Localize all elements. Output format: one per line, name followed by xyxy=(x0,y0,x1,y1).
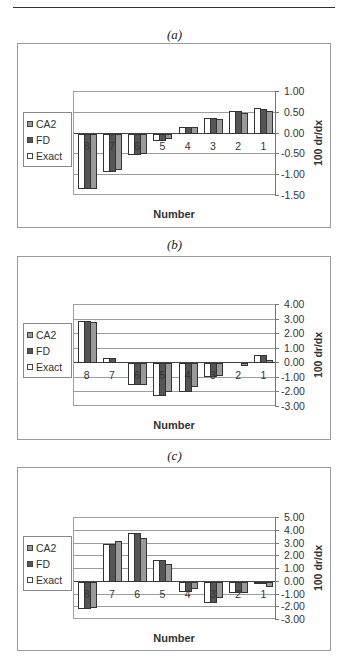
y-tick xyxy=(275,304,279,305)
y-tick-label: -3.00 xyxy=(281,613,305,625)
y-tick xyxy=(275,91,279,92)
gridline xyxy=(74,333,275,334)
category-label: 3 xyxy=(203,588,223,600)
legend-label: CA2 xyxy=(36,542,56,554)
panel-label-a: (a) xyxy=(0,27,349,43)
y-tick xyxy=(275,568,279,569)
y-tick xyxy=(275,406,279,407)
bar-ca2-1 xyxy=(266,582,273,587)
bar-ca2-1 xyxy=(266,111,273,134)
legend-item-ca2: CA2 xyxy=(27,116,71,132)
category-label: 8 xyxy=(77,140,97,152)
x-axis-label: Number xyxy=(73,419,275,431)
y-tick-label: -1.50 xyxy=(281,189,305,201)
bar-fd-7 xyxy=(109,358,116,363)
y-tick xyxy=(275,543,279,544)
legend-swatch-icon xyxy=(27,348,33,354)
category-label: 6 xyxy=(127,140,147,152)
y-tick xyxy=(275,594,279,595)
legend-item-ca2: CA2 xyxy=(27,540,71,556)
y-tick-label: 1.00 xyxy=(284,562,304,574)
bar-ca2-8 xyxy=(90,322,97,364)
category-label: 7 xyxy=(102,140,122,152)
y-tick-label: 1.00 xyxy=(284,342,304,354)
legend-label: CA2 xyxy=(36,329,56,341)
y-tick xyxy=(275,555,279,556)
y-tick-label: 2.00 xyxy=(284,327,304,339)
legend-swatch-icon xyxy=(27,364,33,370)
y-tick xyxy=(275,377,279,378)
y-tick-label: 0.50 xyxy=(284,106,304,118)
bar-ca2-5 xyxy=(165,134,172,139)
legend: CA2FDExact xyxy=(23,323,72,378)
y-tick xyxy=(275,333,279,334)
y-tick xyxy=(275,348,279,349)
y-tick-label: 4.00 xyxy=(284,298,304,310)
y-tick-label: 4.00 xyxy=(284,524,304,536)
bar-ca2-2 xyxy=(241,363,248,366)
category-label: 1 xyxy=(253,588,273,600)
legend-label: Exact xyxy=(36,574,62,586)
legend-item-exact: Exact xyxy=(27,359,71,375)
category-label: 4 xyxy=(178,588,198,600)
category-label: 6 xyxy=(127,588,147,600)
bar-ca2-1 xyxy=(266,360,273,363)
y-tick xyxy=(275,362,279,363)
legend-swatch-icon xyxy=(27,561,33,567)
legend-item-fd: FD xyxy=(27,556,71,572)
category-label: 2 xyxy=(228,369,248,381)
chart-b-frame: 876543214.003.002.001.000.00-1.00-2.00-3… xyxy=(17,256,331,440)
y-tick-label: -1.00 xyxy=(281,168,305,180)
gridline xyxy=(74,530,275,531)
legend-item-ca2: CA2 xyxy=(27,327,71,343)
panel-label-c: (c) xyxy=(0,448,349,464)
y-tick xyxy=(275,391,279,392)
bar-ca2-2 xyxy=(241,113,248,134)
x-axis-label: Number xyxy=(73,208,275,220)
legend-item-exact: Exact xyxy=(27,148,71,164)
y-tick-label: -1.00 xyxy=(281,371,305,383)
y-tick xyxy=(275,606,279,607)
category-label: 7 xyxy=(102,369,122,381)
category-label: 6 xyxy=(127,369,147,381)
category-label: 2 xyxy=(228,140,248,152)
y-tick xyxy=(275,195,279,196)
legend-item-fd: FD xyxy=(27,343,71,359)
y-tick xyxy=(275,153,279,154)
y-tick-label: 1.00 xyxy=(284,85,304,97)
legend-swatch-icon xyxy=(27,545,33,551)
y-tick-label: 0.00 xyxy=(284,127,304,139)
y-tick-label: 0.00 xyxy=(284,575,304,587)
gridline xyxy=(74,348,275,349)
gridline xyxy=(74,174,275,175)
y-tick-label: 3.00 xyxy=(284,537,304,549)
y-axis-label: 100 dr/dx xyxy=(312,545,324,591)
y-tick-label: -2.00 xyxy=(281,600,305,612)
legend-swatch-icon xyxy=(27,121,33,127)
category-label: 4 xyxy=(178,140,198,152)
bar-ca2-3 xyxy=(216,119,223,134)
y-tick xyxy=(275,133,279,134)
y-tick-label: -3.00 xyxy=(281,400,305,412)
y-axis-label: 100 dr/dx xyxy=(312,120,324,166)
y-tick xyxy=(275,112,279,113)
y-tick-label: 0.00 xyxy=(284,356,304,368)
page-top-rule xyxy=(13,7,335,8)
plot-area: 87654321 xyxy=(73,517,275,619)
legend-swatch-icon xyxy=(27,332,33,338)
category-label: 5 xyxy=(152,140,172,152)
bar-ca2-6 xyxy=(140,538,147,581)
bar-ca2-5 xyxy=(165,564,172,582)
category-label: 3 xyxy=(203,369,223,381)
y-tick-label: -0.50 xyxy=(281,147,305,159)
y-tick xyxy=(275,581,279,582)
bar-ca2-7 xyxy=(115,541,122,582)
y-tick-label: 2.00 xyxy=(284,549,304,561)
chart-c-frame: 876543215.004.003.002.001.000.00-1.00-2.… xyxy=(17,467,331,651)
category-label: 8 xyxy=(77,369,97,381)
y-tick xyxy=(275,517,279,518)
legend-item-exact: Exact xyxy=(27,572,71,588)
category-label: 7 xyxy=(102,588,122,600)
gridline xyxy=(74,391,275,392)
y-axis-label: 100 dr/dx xyxy=(312,332,324,378)
